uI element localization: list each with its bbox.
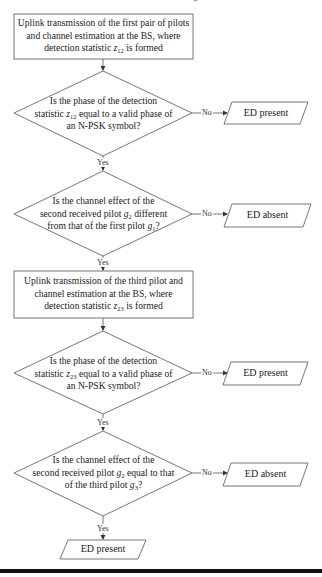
decision-text-1: Is the phase of the detection statistic … bbox=[30, 95, 177, 133]
no-label-1: No bbox=[201, 108, 213, 117]
yes-label-3: Yes bbox=[96, 418, 110, 427]
yes-label-2: Yes bbox=[96, 258, 110, 267]
process-text-1: Uplink transmission of the first pair of… bbox=[14, 17, 193, 55]
decision-text-4: Is the channel effect of the second rece… bbox=[30, 454, 177, 492]
outcome-text-1: ED present bbox=[228, 107, 304, 119]
outcome-text-2: ED absent bbox=[228, 209, 307, 221]
no-label-2: No bbox=[201, 209, 213, 218]
no-label-4: No bbox=[201, 468, 213, 477]
no-label-3: No bbox=[201, 368, 213, 377]
yes-label-1: Yes bbox=[96, 158, 110, 167]
decision-text-2: Is the channel effect of the second rece… bbox=[30, 195, 177, 233]
decision-text-3: Is the phase of the detection statistic … bbox=[30, 355, 177, 393]
final-outcome-text: ED present bbox=[64, 543, 142, 555]
outcome-text-3: ED present bbox=[227, 367, 304, 379]
bottom-rule bbox=[0, 569, 322, 573]
outcome-text-4: ED absent bbox=[227, 468, 304, 480]
yes-label-4: Yes bbox=[96, 524, 110, 533]
process-text-2: Uplink transmission of the third pilot a… bbox=[14, 275, 193, 313]
